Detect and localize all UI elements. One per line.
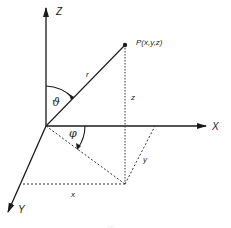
caption: . .. (108, 222, 114, 228)
polar-angle-label: ϑ (52, 96, 60, 109)
spherical-coordinate-diagram: Z X Y P(x,y,z) r z y x ϑ φ . .. (0, 0, 231, 228)
projection-dashed-line (46, 126, 125, 184)
y-segment-label: y (142, 155, 148, 164)
azimuth-angle-label: φ (69, 127, 77, 140)
y-axis-label: Y (18, 204, 26, 215)
x-segment-label: x (70, 190, 76, 199)
radius-line (46, 45, 125, 126)
y-projection-dashed-line (125, 126, 155, 184)
y-axis (8, 126, 46, 212)
polar-angle-arrowhead (69, 94, 74, 100)
z-axis-label: Z (55, 6, 63, 17)
azimuth-angle-arc (78, 126, 85, 148)
x-axis-label: X (211, 121, 219, 132)
height-label: z (130, 93, 135, 102)
point-label: P(x,y,z) (136, 38, 163, 47)
radius-label: r (86, 70, 89, 79)
